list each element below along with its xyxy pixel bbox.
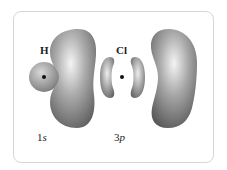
orbital-letter: s bbox=[43, 131, 47, 143]
atom-label-cl: Cl bbox=[116, 44, 127, 56]
h-nucleus bbox=[42, 75, 46, 79]
orbital-label-3p: 3p bbox=[114, 131, 125, 143]
orbital-letter: p bbox=[120, 131, 126, 143]
cl-3p-lobe-right-small bbox=[131, 57, 145, 98]
cl-3p-lobe-right-large bbox=[151, 29, 197, 128]
cl-nucleus bbox=[120, 75, 124, 79]
orbital-illustration bbox=[0, 0, 227, 170]
atom-label-h: H bbox=[40, 44, 49, 56]
cl-3p-lobe-left-small bbox=[100, 57, 114, 98]
orbital-label-1s: 1s bbox=[37, 131, 47, 143]
